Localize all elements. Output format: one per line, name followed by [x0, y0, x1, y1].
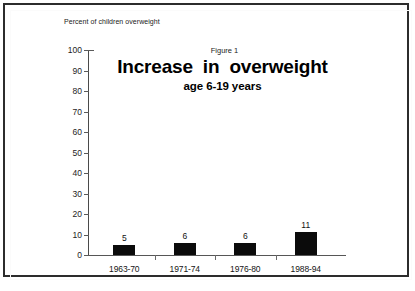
y-axis-tick-label: 20 — [56, 209, 82, 219]
bar — [113, 245, 135, 255]
bar — [174, 243, 196, 255]
y-axis-tick — [84, 255, 89, 256]
y-axis-tick — [84, 153, 89, 154]
x-axis-line — [88, 255, 346, 256]
x-axis-tick — [215, 255, 216, 260]
bar-value-label: 11 — [301, 220, 310, 230]
y-axis-tick-label: 60 — [56, 127, 82, 137]
y-axis-tick-label: 50 — [56, 148, 82, 158]
bar — [295, 232, 317, 255]
y-axis-tick — [84, 91, 89, 92]
bar — [234, 243, 256, 255]
x-axis-tick — [276, 255, 277, 260]
y-axis-tick — [84, 235, 89, 236]
bar-value-label: 5 — [122, 233, 127, 243]
chart-screenshot: Percent of children overweight Figure 1 … — [0, 0, 415, 291]
x-axis-category-label: 1963-70 — [109, 264, 140, 274]
y-axis-tick-label: 10 — [56, 230, 82, 240]
y-axis-tick — [84, 194, 89, 195]
x-axis-category-label: 1988-94 — [291, 264, 322, 274]
y-axis-tick-label: 0 — [56, 250, 82, 260]
y-axis-tick-label: 70 — [56, 107, 82, 117]
y-axis-tick-label: 90 — [56, 66, 82, 76]
bar-value-label: 6 — [243, 231, 248, 241]
x-axis-category-label: 1976-80 — [230, 264, 261, 274]
y-axis-tick — [84, 173, 89, 174]
x-axis-category-label: 1971-74 — [170, 264, 201, 274]
plot-area: 010203040506070809010051963-7061971-7461… — [88, 50, 346, 256]
y-axis-title: Percent of children overweight — [64, 17, 184, 27]
y-axis-tick-label: 80 — [56, 86, 82, 96]
bar-value-label: 6 — [182, 231, 187, 241]
y-axis-tick — [84, 112, 89, 113]
y-axis-tick — [84, 50, 89, 51]
y-axis-tick-label: 30 — [56, 189, 82, 199]
y-axis-tick-label: 100 — [56, 45, 82, 55]
x-axis-tick — [155, 255, 156, 260]
y-axis-tick — [84, 71, 89, 72]
y-axis-tick — [84, 132, 89, 133]
y-axis-tick-label: 40 — [56, 168, 82, 178]
y-axis-tick — [84, 214, 89, 215]
